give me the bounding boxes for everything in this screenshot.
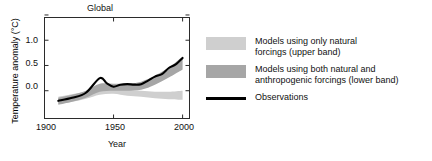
legend-item-observations: Observations [206,92,432,103]
legend-label-natural-and-anthropogenic: Models using both natural and anthropoge… [255,64,399,86]
plot-panel: Global Temperature anomaly (°C) Year 1.0… [0,0,200,161]
legend-item-natural-only: Models using only natural forcings (uppe… [206,36,432,58]
legend-item-natural-and-anthropogenic: Models using both natural and anthropoge… [206,64,432,86]
legend-label-line-2: anthropogenic forcings (lower band) [255,75,399,85]
chart-legend: Models using only natural forcings (uppe… [206,36,432,109]
legend-label-natural-only: Models using only natural forcings (uppe… [255,36,357,58]
climate-attribution-figure: Global Temperature anomaly (°C) Year 1.0… [0,0,432,161]
light-gray-band-swatch [206,37,246,50]
legend-label-line-1: Models using both natural and [255,64,376,74]
legend-label-line-2: forcings (upper band) [255,47,341,57]
black-line-swatch [206,97,246,100]
dark-gray-band-swatch [206,65,246,78]
legend-label-line-1: Models using only natural [255,36,357,46]
chart-plot-area [0,0,200,161]
legend-label-observations: Observations [255,92,308,103]
